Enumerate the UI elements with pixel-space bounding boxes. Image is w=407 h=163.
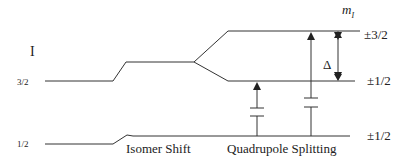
level-diagram <box>0 0 407 163</box>
excited-upper-branch <box>194 31 360 62</box>
excited-spin-label: 3/2 <box>17 78 29 87</box>
sublevel-excited-upper: ±3/2 <box>364 28 388 41</box>
sublevel-excited-lower: ±1/2 <box>367 74 391 87</box>
quadrupole-splitting-caption: Quadrupole Splitting <box>227 142 336 155</box>
delta-label: Δ <box>323 58 331 71</box>
isomer-shift-caption: Isomer Shift <box>126 142 191 155</box>
mi-header: mI <box>342 3 354 20</box>
excited-level-line <box>45 62 194 81</box>
sublevel-ground: ±1/2 <box>367 129 391 142</box>
ground-spin-label: 1/2 <box>17 140 29 149</box>
spin-label: I <box>30 45 35 59</box>
